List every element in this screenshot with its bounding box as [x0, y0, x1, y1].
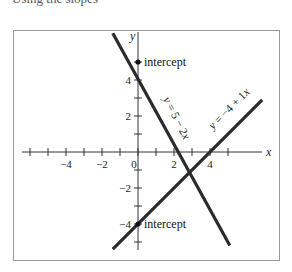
y-tick-label: 4 — [126, 74, 132, 86]
x-axis-label: x — [265, 145, 272, 159]
y-tick-label: −4 — [119, 218, 131, 230]
x-tick-label: 2 — [171, 158, 177, 170]
coordinate-plot: −4−202442−2−4xy y = 5 − 2xy = −4 + 1xint… — [0, 0, 292, 272]
plotted-lines — [113, 33, 262, 249]
y-tick-label: 2 — [126, 110, 132, 122]
intercept-label: intercept — [144, 55, 187, 69]
line-equation-label-2: y = −4 + 1x — [205, 85, 253, 133]
x-tick-label: 0 — [131, 158, 137, 170]
x-tick-label: 4 — [207, 158, 213, 170]
y-axis-label: y — [129, 29, 136, 43]
intercept-point — [135, 221, 140, 226]
x-tick-label: −4 — [60, 158, 72, 170]
annotations: y = 5 − 2xy = −4 + 1xinterceptintercept — [135, 55, 253, 231]
line-equation-label-1: y = 5 − 2x — [160, 94, 193, 143]
intercept-point — [135, 59, 140, 64]
line-series-2 — [113, 100, 262, 249]
y-tick-label: −2 — [119, 182, 131, 194]
intercept-label: intercept — [144, 217, 187, 231]
x-tick-label: −2 — [96, 158, 108, 170]
